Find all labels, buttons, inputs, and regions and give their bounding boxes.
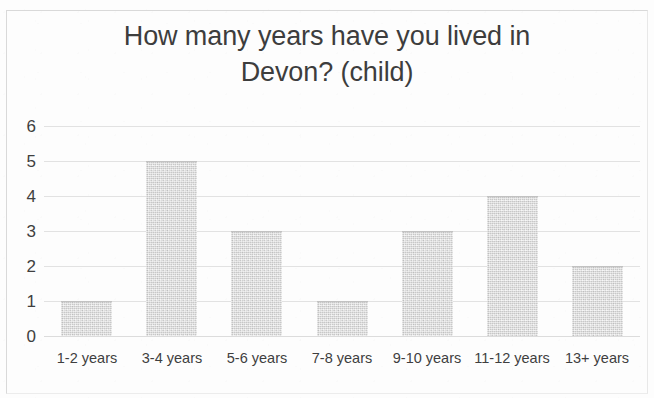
y-axis-tick-label: 5 [8,153,36,170]
y-axis-tick-label: 6 [8,118,36,135]
y-axis-tick-label: 2 [8,258,36,275]
x-axis-tick-label: 7-8 years [300,349,384,368]
y-axis-tick-label: 1 [8,293,36,310]
axis-baseline [44,336,640,337]
bar [231,231,282,336]
bars-group [44,126,640,336]
x-axis-tick-label: 11-12 years [470,349,554,368]
x-axis-labels: 1-2 years3-4 years5-6 years7-8 years9-10… [44,349,640,395]
chart-figure: How many years have you lived in Devon? … [0,0,654,398]
bar [402,231,453,336]
chart-title: How many years have you lived in Devon? … [0,18,654,90]
y-axis-tick-label: 0 [8,328,36,345]
bar [487,196,538,336]
x-axis-tick-label: 13+ years [555,349,639,368]
y-axis-tick-label: 4 [8,188,36,205]
x-axis-tick-label: 9-10 years [385,349,469,368]
bar [572,266,623,336]
bar [317,301,368,336]
x-axis-tick-label: 3-4 years [130,349,214,368]
x-axis-tick-label: 1-2 years [45,349,129,368]
plot-area [44,126,640,336]
y-axis-tick-label: 3 [8,223,36,240]
bar [61,301,112,336]
y-axis-labels: 6543210 [8,126,36,336]
bar [146,161,197,336]
x-axis-tick-label: 5-6 years [215,349,299,368]
